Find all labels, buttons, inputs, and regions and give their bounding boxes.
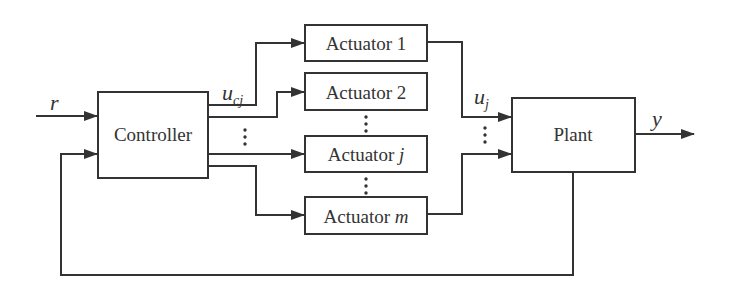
actuator-2-label: Actuator 2	[326, 82, 407, 103]
plant-label: Plant	[553, 124, 593, 145]
wire-actuator-1-plant	[427, 42, 511, 117]
actuator-output-label: uj	[474, 84, 489, 112]
actuator-2-block: Actuator 2	[305, 73, 427, 110]
ellipsis-actuators-upper	[364, 115, 367, 132]
actuator-m-label: Actuator m	[324, 206, 409, 227]
actuator-1-block: Actuator 1	[305, 25, 427, 61]
reference-signal-label: r	[50, 90, 59, 115]
plant-block: Plant	[512, 98, 635, 172]
wire-controller-actuator-m	[208, 166, 304, 215]
controller-label: Controller	[114, 124, 193, 145]
actuator-m-block: Actuator m	[305, 197, 427, 234]
wire-actuator-m-plant	[427, 154, 511, 214]
actuator-1-label: Actuator 1	[326, 33, 407, 54]
ellipsis-actuators-lower	[364, 177, 367, 194]
control-block-diagram: r Controller ucj Actuator 1 Actuator 2 A…	[0, 0, 731, 297]
controller-block: Controller	[98, 92, 208, 178]
actuator-j-label: Actuator j	[328, 144, 405, 165]
controller-output-label: ucj	[222, 80, 243, 108]
output-signal-label: y	[650, 106, 662, 131]
ellipsis-controller-outputs	[243, 128, 246, 145]
actuator-j-block: Actuator j	[305, 136, 427, 172]
ellipsis-plant-inputs	[483, 126, 486, 143]
